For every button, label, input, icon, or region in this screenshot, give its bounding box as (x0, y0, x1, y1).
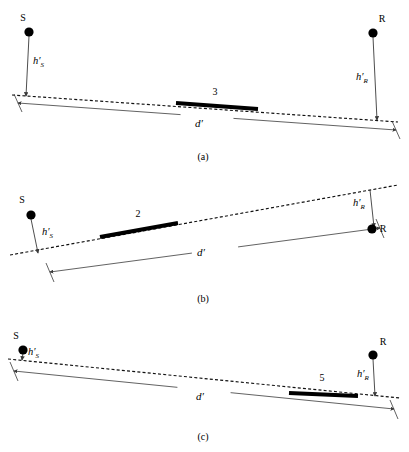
obstacle-bar-a (176, 103, 258, 109)
panel-c: d′5h′Sh′RSR(c) (8, 330, 400, 443)
panels-layer: d′3h′Sh′RSR(a)d′2h′Sh′RSR(b)d′5h′Sh′RSR(… (8, 12, 400, 443)
receiver-height-subscript-c: R (364, 374, 370, 382)
receiver-node-dot-a (368, 28, 377, 37)
receiver-height-label-b: h′R (353, 197, 366, 211)
source-node-dot-b (26, 210, 35, 219)
source-node-dot-c (18, 345, 27, 354)
terrain-baseline-a (12, 95, 398, 122)
source-node-dot-a (24, 27, 33, 36)
distance-label-a: d′ (195, 117, 204, 129)
receiver-height-line-a (373, 37, 377, 120)
diagram-canvas: d′3h′Sh′RSR(a)d′2h′Sh′RSR(b)d′5h′Sh′RSR(… (0, 0, 409, 452)
source-node-label-b: S (19, 194, 25, 205)
source-height-subscript-b: S (50, 232, 54, 240)
source-height-line-b (31, 219, 38, 253)
receiver-height-subscript-b: R (360, 203, 366, 211)
terrain-baseline-c (8, 359, 400, 398)
panel-b: d′2h′Sh′RSR(b) (10, 185, 398, 305)
distance-extension-right-c (390, 400, 398, 419)
distance-extension-left-b (46, 263, 54, 282)
panel-caption-c: (c) (197, 431, 208, 443)
distance-label-c: d′ (196, 390, 205, 402)
receiver-height-subscript-a: R (363, 77, 369, 85)
receiver-height-line-c (373, 359, 375, 396)
source-height-label-b: h′S (42, 226, 54, 240)
source-height-subscript-c: S (36, 352, 40, 360)
obstacle-label-b: 2 (136, 208, 141, 219)
panel-a: d′3h′Sh′RSR(a) (12, 12, 400, 163)
panel-caption-b: (b) (197, 293, 209, 305)
figure-root: d′3h′Sh′RSR(a)d′2h′Sh′RSR(b)d′5h′Sh′RSR(… (0, 0, 409, 452)
distance-label-b: d′ (197, 246, 206, 258)
distance-dimension-right-b (238, 228, 380, 247)
obstacle-label-c: 5 (320, 372, 325, 383)
distance-dimension-left-b (50, 253, 192, 272)
receiver-height-label-c: h′R (357, 368, 370, 382)
receiver-height-label-a: h′R (356, 71, 369, 85)
receiver-node-label-c: R (380, 336, 387, 347)
source-height-subscript-a: S (41, 61, 45, 69)
source-node-label-a: S (20, 12, 26, 23)
receiver-node-label-b: R (380, 223, 387, 234)
source-height-label-a: h′S (33, 55, 45, 69)
receiver-node-label-a: R (379, 13, 386, 24)
distance-dimension-left-a (18, 103, 181, 115)
obstacle-bar-b (100, 223, 178, 237)
source-height-line-a (26, 36, 29, 96)
panel-caption-a: (a) (197, 151, 208, 163)
receiver-height-line-b (370, 190, 374, 227)
receiver-node-dot-b (367, 224, 376, 233)
source-height-label-c: h′S (28, 346, 40, 360)
obstacle-bar-c (289, 393, 358, 396)
receiver-node-dot-c (368, 350, 377, 359)
terrain-baseline-b (10, 185, 398, 255)
source-node-label-c: S (13, 330, 19, 341)
obstacle-label-a: 3 (213, 86, 218, 97)
